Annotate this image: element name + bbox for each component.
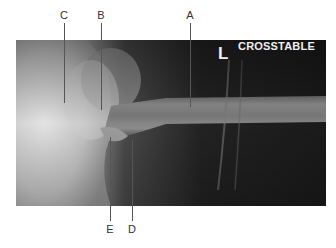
leader-line-e: [110, 137, 111, 221]
leader-line-c: [64, 23, 65, 103]
leader-line-d: [132, 140, 133, 221]
callout-label-a: A: [184, 9, 196, 21]
callout-label-c: C: [58, 9, 70, 21]
callout-label-d: D: [126, 223, 138, 235]
callout-label-b: B: [95, 9, 107, 21]
view-label: CROSSTABLE: [238, 40, 315, 52]
crosstable-lateral-hip-xray: L CROSSTABLE: [16, 40, 326, 206]
xray-image: [16, 40, 326, 206]
leader-line-b: [101, 23, 102, 110]
callout-label-e: E: [104, 223, 116, 235]
leader-line-a: [190, 23, 191, 107]
xray-figure: L CROSSTABLE C B A E D: [0, 0, 336, 248]
side-marker-left: L: [218, 44, 228, 64]
